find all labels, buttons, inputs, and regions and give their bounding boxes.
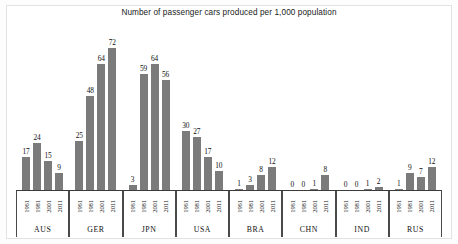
bar-slot: 17 — [204, 23, 212, 191]
bar[interactable] — [204, 157, 212, 191]
bar[interactable] — [417, 177, 425, 191]
year-cell: 1981 — [33, 191, 41, 221]
year-label: 2011 — [322, 200, 329, 213]
bar-group-rus: 19712 — [389, 23, 442, 191]
bar-slot: 0 — [353, 23, 361, 191]
year-label: 1961 — [76, 200, 83, 213]
bar[interactable] — [428, 167, 436, 191]
bar[interactable] — [97, 64, 105, 191]
bar[interactable] — [162, 80, 170, 191]
bar-value-label: 12 — [428, 158, 435, 166]
year-label: 1961 — [182, 200, 189, 213]
year-label: 1981 — [353, 200, 360, 213]
bar-group-ger: 25486472 — [69, 23, 122, 191]
bar[interactable] — [140, 74, 148, 191]
bar-value-label: 8 — [324, 166, 328, 174]
year-label: 2011 — [375, 200, 382, 213]
year-cell: 2001 — [364, 191, 372, 221]
bar-slot: 0 — [288, 23, 296, 191]
year-cell: 2001 — [417, 191, 425, 221]
bar-value-label: 9 — [57, 164, 61, 172]
year-cell: 1981 — [193, 191, 201, 221]
bar-slot: 8 — [257, 23, 265, 191]
year-cell: 1981 — [246, 191, 254, 221]
year-label: 1981 — [406, 200, 413, 213]
bar[interactable] — [108, 48, 116, 191]
bar-value-label: 48 — [87, 87, 94, 95]
bar-slot: 3 — [129, 23, 137, 191]
year-cell: 2001 — [151, 191, 159, 221]
bar-value-label: 64 — [98, 55, 105, 63]
year-label: 2011 — [109, 200, 116, 213]
bar[interactable] — [193, 137, 201, 191]
bar[interactable] — [75, 141, 83, 191]
bar[interactable] — [44, 161, 52, 191]
bar-value-label: 1 — [313, 180, 317, 188]
year-label: 2001 — [45, 200, 52, 213]
bar[interactable] — [321, 175, 329, 191]
year-label: 2001 — [151, 200, 158, 213]
year-label: 2001 — [364, 200, 371, 213]
year-label: 1981 — [140, 200, 147, 213]
bar-value-label: 7 — [419, 168, 423, 176]
bar-slot: 15 — [44, 23, 52, 191]
bar-slot: 10 — [215, 23, 223, 191]
bar-slot: 2 — [375, 23, 383, 191]
bar-slot: 1 — [364, 23, 372, 191]
year-cell: 2011 — [162, 191, 170, 221]
year-label: 1961 — [289, 200, 296, 213]
bar-value-label: 1 — [237, 180, 241, 188]
country-cell-aus: AUS — [16, 221, 69, 237]
year-label: 2011 — [162, 200, 169, 213]
bar-value-label: 2 — [377, 178, 381, 186]
bar[interactable] — [406, 173, 414, 191]
year-cell: 2011 — [321, 191, 329, 221]
bar-slot: 7 — [417, 23, 425, 191]
bar[interactable] — [33, 143, 41, 191]
bar-value-label: 30 — [182, 122, 189, 130]
bar-value-label: 59 — [140, 65, 147, 73]
country-cell-ind: IND — [336, 221, 389, 237]
year-cell: 1981 — [140, 191, 148, 221]
bar[interactable] — [151, 64, 159, 191]
year-label-strip: 1961198120012011196119812001201119611981… — [16, 191, 442, 221]
bar-group-jpn: 3596456 — [123, 23, 176, 191]
year-cell: 2011 — [375, 191, 383, 221]
year-label: 2011 — [428, 200, 435, 213]
year-group-usa: 1961198120012011 — [176, 191, 229, 221]
bar-value-label: 10 — [215, 162, 222, 170]
year-label: 2001 — [204, 200, 211, 213]
bar[interactable] — [257, 175, 265, 191]
country-cell-chn: CHN — [282, 221, 335, 237]
year-label: 2001 — [98, 200, 105, 213]
country-cell-ger: GER — [69, 221, 122, 237]
bar-value-label: 0 — [344, 181, 348, 189]
bar[interactable] — [215, 171, 223, 191]
year-label: 1961 — [23, 200, 30, 213]
year-group-ind: 1961198120012011 — [336, 191, 389, 221]
country-label: USA — [194, 225, 211, 234]
bar-value-label: 9 — [408, 164, 412, 172]
bar-slot: 25 — [75, 23, 83, 191]
bar[interactable] — [86, 96, 94, 191]
year-cell: 1961 — [288, 191, 296, 221]
bar[interactable] — [55, 173, 63, 191]
year-cell: 1961 — [22, 191, 30, 221]
year-group-rus: 1961198120012011 — [389, 191, 442, 221]
bar-slot: 12 — [268, 23, 276, 191]
bar[interactable] — [182, 131, 190, 191]
bar[interactable] — [22, 157, 30, 191]
year-cell: 2011 — [108, 191, 116, 221]
bar-group-bra: 13812 — [229, 23, 282, 191]
bar-value-label: 1 — [366, 180, 370, 188]
bar-value-label: 0 — [291, 181, 295, 189]
year-cell: 1961 — [129, 191, 137, 221]
year-label: 1961 — [395, 200, 402, 213]
bar-slot: 30 — [182, 23, 190, 191]
country-label: BRA — [247, 225, 265, 234]
bar[interactable] — [268, 167, 276, 191]
year-cell: 1981 — [353, 191, 361, 221]
year-cell: 2011 — [215, 191, 223, 221]
bar-value-label: 17 — [204, 148, 211, 156]
bar-slot: 56 — [162, 23, 170, 191]
